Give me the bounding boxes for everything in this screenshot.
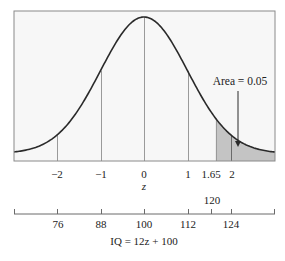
iq-formula: IQ = 12z + 100 (110, 235, 178, 247)
z-tick-label: 1.65 (201, 168, 221, 180)
z-tick-label: −2 (51, 168, 63, 180)
z-tick-label: −1 (95, 168, 107, 180)
area-annotation: Area = 0.05 (213, 75, 268, 87)
iq-axis-ticks (15, 209, 275, 214)
iq-tick-label: 124 (223, 218, 240, 230)
iq-120-label: 120 (204, 194, 221, 206)
z-axis-title: z (141, 180, 147, 192)
iq-tick-label: 100 (136, 218, 153, 230)
iq-axis-tick-labels: 76 88 100 112 124 (53, 218, 240, 230)
iq-tick-label: 88 (96, 218, 108, 230)
iq-tick-label: 112 (180, 218, 196, 230)
z-axis-tick-labels: −2 −1 0 1 1.65 2 (51, 168, 235, 180)
z-tick-label: 1 (185, 168, 191, 180)
iq-tick-label: 76 (53, 218, 65, 230)
z-tick-label: 0 (141, 168, 147, 180)
z-tick-label: 2 (229, 168, 235, 180)
normal-distribution-chart: Area = 0.05 −2 −1 0 1 1.65 2 z 120 76 88… (0, 0, 285, 261)
